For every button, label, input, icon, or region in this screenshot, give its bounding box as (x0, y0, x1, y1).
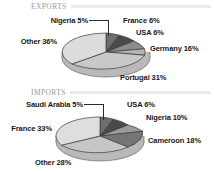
imports-pie-chart: Saudi Arabia 5% USA 6% Nigeria 10% Camer… (0, 86, 214, 172)
exports-leader-line-horizontal (89, 20, 109, 21)
exports-label-france: France 6% (123, 16, 160, 25)
exports-leader-line-vertical (108, 20, 109, 36)
exports-label-usa: USA 6% (136, 28, 164, 37)
exports-label-germany: Germany 16% (150, 44, 199, 53)
imports-label-saudi: Saudi Arabia 5% (6, 100, 83, 109)
exports-label-nigeria: Nigeria 5% (20, 16, 88, 25)
imports-label-nigeria: Nigeria 10% (146, 113, 187, 122)
imports-label-france: France 33% (0, 124, 52, 133)
exports-slices (62, 33, 145, 69)
exports-label-other: Other 36% (0, 37, 57, 46)
imports-leader-line-vertical (103, 104, 104, 120)
imports-label-cameroon: Cameroon 18% (148, 136, 201, 145)
imports-label-usa: USA 6% (127, 100, 155, 109)
exports-pie-chart: Nigeria 5% France 6% USA 6% Germany 16% … (0, 0, 214, 86)
imports-leader-line-horizontal (84, 104, 104, 105)
exports-panel: EXPORTS (0, 0, 214, 86)
exports-label-portugal: Portugal 31% (120, 73, 166, 82)
imports-label-other: Other 28% (35, 158, 71, 167)
imports-panel: IMPORTS (0, 86, 214, 172)
